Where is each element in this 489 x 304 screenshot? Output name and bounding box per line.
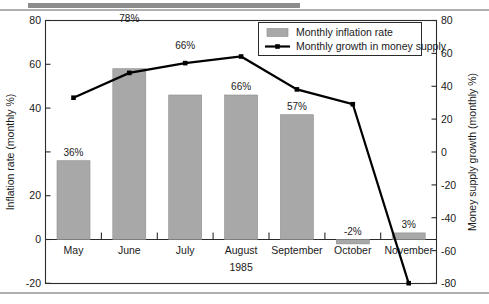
legend-swatch-inflation [267, 29, 288, 37]
bar-may[interactable] [57, 161, 90, 240]
bar-june[interactable] [113, 69, 146, 240]
right-axis: 80 60 40 20 0 -20 -40 -60 -80 Money supp… [432, 14, 479, 289]
left-axis-title: Inflation rate (monthly %) [4, 94, 16, 211]
left-tick-label-neg20: -20 [26, 277, 41, 289]
left-axis-ticks [46, 21, 51, 284]
bar-label-june: 78% [119, 13, 139, 24]
bar-label-july: 66% [175, 40, 195, 51]
right-tick-label-neg40: -40 [441, 212, 456, 224]
bar-november[interactable] [392, 233, 425, 240]
bar-label-october: -2% [344, 226, 362, 237]
bar-label-august: 66% [231, 81, 251, 92]
period-label: 1985 [229, 261, 253, 273]
legend-label-money-supply[interactable]: Monthly growth in money supply [296, 40, 447, 52]
category-label-november: November [384, 244, 433, 256]
bar-label-may: 36% [63, 147, 83, 158]
right-axis-title: Money supply growth (monthly %) [466, 73, 478, 231]
left-tick-label-0: 0 [35, 233, 41, 245]
right-tick-label-20: 20 [441, 113, 453, 125]
right-tick-label-0: 0 [441, 146, 447, 158]
right-tick-label-neg60: -60 [441, 245, 456, 257]
category-label-june: June [118, 244, 141, 256]
category-label-may: May [64, 244, 85, 256]
left-tick-label-80: 80 [29, 14, 41, 26]
bar-september[interactable] [280, 115, 313, 240]
left-tick-label-60: 60 [29, 58, 41, 70]
bar-july[interactable] [169, 95, 202, 240]
category-labels: May June July August September October N… [64, 244, 434, 273]
left-axis: 80 60 40 20 0 -20 Inflation rate (monthl… [4, 14, 51, 289]
bar-label-september: 57% [287, 101, 307, 112]
category-label-july: July [176, 244, 195, 256]
chart-canvas: 80 60 40 20 0 -20 Inflation rate (monthl… [0, 0, 489, 304]
chart-legend: Monthly inflation rate Monthly growth in… [259, 23, 447, 56]
right-tick-label-80: 80 [441, 14, 453, 26]
category-label-october: October [334, 244, 372, 256]
category-label-august: August [225, 244, 258, 256]
chart-figure: 80 60 40 20 0 -20 Inflation rate (monthl… [0, 0, 489, 304]
category-label-september: September [271, 244, 323, 256]
left-tick-label-20: 20 [29, 189, 41, 201]
legend-label-inflation[interactable]: Monthly inflation rate [296, 26, 393, 38]
right-tick-label-neg80: -80 [441, 277, 456, 289]
right-tick-label-40: 40 [441, 80, 453, 92]
bar-august[interactable] [225, 95, 258, 240]
right-tick-label-neg20: -20 [441, 179, 456, 191]
left-tick-label-40: 40 [29, 102, 41, 114]
bar-label-november: 3% [401, 219, 416, 230]
